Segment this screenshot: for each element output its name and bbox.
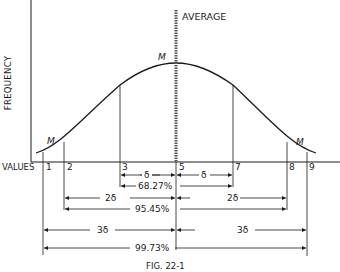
x-tick-7: 7 bbox=[235, 162, 241, 172]
x-tick-2: 2 bbox=[67, 162, 73, 172]
x-tick-8: 8 bbox=[289, 162, 295, 172]
percent-95: 95.45% bbox=[133, 204, 171, 214]
y-axis-label: FREQUENCY bbox=[2, 48, 14, 118]
percent-99: 99.73% bbox=[133, 243, 171, 253]
curve-marker-left: M bbox=[47, 136, 55, 146]
percent-68: 68.27% bbox=[136, 181, 174, 191]
3sigma-left-label: 3δ bbox=[95, 225, 110, 235]
3sigma-right-label: 3δ bbox=[235, 225, 250, 235]
2sigma-right-label: 2δ bbox=[225, 193, 240, 203]
figure-caption: FIG. 22-1 bbox=[146, 261, 185, 271]
sigma-left-label: δ bbox=[142, 170, 152, 180]
curve-marker-peak: M bbox=[158, 52, 166, 62]
sigma-right-label: δ bbox=[199, 170, 209, 180]
x-tick-1: 1 bbox=[46, 162, 52, 172]
x-tick-3: 3 bbox=[122, 162, 128, 172]
curve-marker-right: M bbox=[296, 137, 304, 147]
x-axis-label: VALUES bbox=[2, 162, 34, 172]
average-label: AVERAGE bbox=[182, 12, 226, 22]
x-tick-9: 9 bbox=[309, 162, 315, 172]
2sigma-left-label: 2δ bbox=[103, 193, 118, 203]
x-tick-5: 5 bbox=[179, 162, 185, 172]
